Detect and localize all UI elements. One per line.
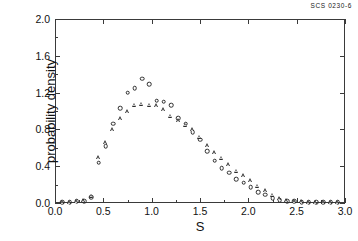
data-point-triangles [300, 199, 304, 203]
data-point-triangles [220, 156, 224, 160]
data-point-triangles [285, 198, 289, 202]
data-point-circles [241, 180, 246, 185]
data-point-triangles [191, 127, 195, 131]
y-tick-label: 0.0 [35, 197, 50, 209]
data-point-triangles [89, 194, 93, 198]
x-tick [345, 198, 346, 203]
data-point-circles [263, 192, 268, 197]
x-minor-tick [176, 200, 177, 203]
data-point-triangles [104, 140, 108, 144]
x-tick-label: 0.5 [96, 205, 111, 217]
data-point-circles [125, 90, 130, 95]
data-point-circles [219, 166, 224, 171]
x-minor-tick [224, 200, 225, 203]
x-tick-label: 3.0 [338, 205, 353, 217]
data-point-triangles [321, 200, 325, 204]
data-point-triangles [278, 196, 282, 200]
x-tick-label: 1.0 [144, 205, 159, 217]
data-point-circles [169, 103, 174, 108]
data-point-triangles [111, 127, 115, 131]
data-point-circles [147, 82, 152, 87]
y-tick [55, 166, 60, 167]
data-point-triangles [140, 102, 144, 106]
data-point-circles [205, 149, 210, 154]
data-point-triangles [314, 200, 318, 204]
data-point-triangles [75, 199, 79, 203]
data-point-circles [248, 185, 253, 190]
x-tick-label: 1.5 [193, 205, 208, 217]
x-minor-tick [79, 200, 80, 203]
data-point-triangles [336, 200, 340, 204]
data-point-circles [212, 158, 217, 163]
x-tick-top [345, 19, 346, 24]
data-point-circles [227, 170, 232, 175]
data-point-circles [96, 160, 101, 165]
data-point-triangles [227, 162, 231, 166]
x-axis-label: S [196, 219, 205, 234]
data-point-circles [161, 100, 166, 105]
data-point-circles [111, 122, 116, 127]
x-tick-top [248, 19, 249, 24]
data-point-triangles [147, 103, 151, 107]
x-minor-tick [128, 200, 129, 203]
data-point-triangles [68, 200, 72, 204]
x-tick [297, 198, 298, 203]
x-tick-top [152, 19, 153, 24]
y-tick-right [340, 19, 345, 20]
data-point-triangles [169, 114, 173, 118]
data-point-triangles [249, 178, 253, 182]
x-tick [103, 198, 104, 203]
data-point-triangles [292, 199, 296, 203]
data-point-triangles [184, 123, 188, 127]
data-point-circles [256, 190, 261, 195]
y-tick-right [340, 129, 345, 130]
data-point-triangles [126, 109, 130, 113]
data-point-triangles [118, 116, 122, 120]
x-tick-label: 2.5 [289, 205, 304, 217]
data-point-triangles [234, 169, 238, 173]
data-point-triangles [307, 200, 311, 204]
data-point-circles [118, 106, 123, 111]
x-tick [248, 198, 249, 203]
y-tick-right [340, 203, 345, 204]
y-tick-right [340, 166, 345, 167]
y-tick-label: 2.0 [35, 13, 50, 25]
y-tick-right [340, 56, 345, 57]
data-point-triangles [176, 118, 180, 122]
y-tick [55, 19, 60, 20]
data-point-triangles [133, 103, 137, 107]
data-point-triangles [162, 107, 166, 111]
data-point-triangles [329, 200, 333, 204]
y-minor-tick [55, 185, 58, 186]
data-point-triangles [60, 200, 64, 204]
y-tick [55, 56, 60, 57]
figure-code-label: SCS 0230-6 [311, 2, 352, 9]
data-point-triangles [198, 135, 202, 139]
data-point-circles [140, 77, 145, 82]
plot-frame [55, 19, 345, 203]
data-point-circles [234, 177, 239, 182]
figure: SCS 0230-6 0.00.51.01.52.02.53.00.00.40.… [0, 0, 358, 241]
x-tick [200, 198, 201, 203]
data-point-triangles [263, 188, 267, 192]
data-point-triangles [155, 103, 159, 107]
data-point-circles [132, 86, 137, 91]
data-point-triangles [271, 193, 275, 197]
y-tick-right [340, 93, 345, 94]
data-point-triangles [213, 150, 217, 154]
x-tick-top [200, 19, 201, 24]
x-tick-label: 2.0 [241, 205, 256, 217]
data-point-triangles [205, 143, 209, 147]
data-point-circles [154, 99, 159, 104]
data-point-circles [270, 196, 275, 201]
data-point-triangles [242, 173, 246, 177]
y-minor-tick [55, 37, 58, 38]
data-point-triangles [97, 155, 101, 159]
data-point-circles [103, 144, 108, 149]
y-axis-label: probability density [43, 59, 58, 163]
x-tick-top [103, 19, 104, 24]
x-tick-top [297, 19, 298, 24]
data-point-triangles [256, 184, 260, 188]
data-point-triangles [82, 198, 86, 202]
x-tick [152, 198, 153, 203]
